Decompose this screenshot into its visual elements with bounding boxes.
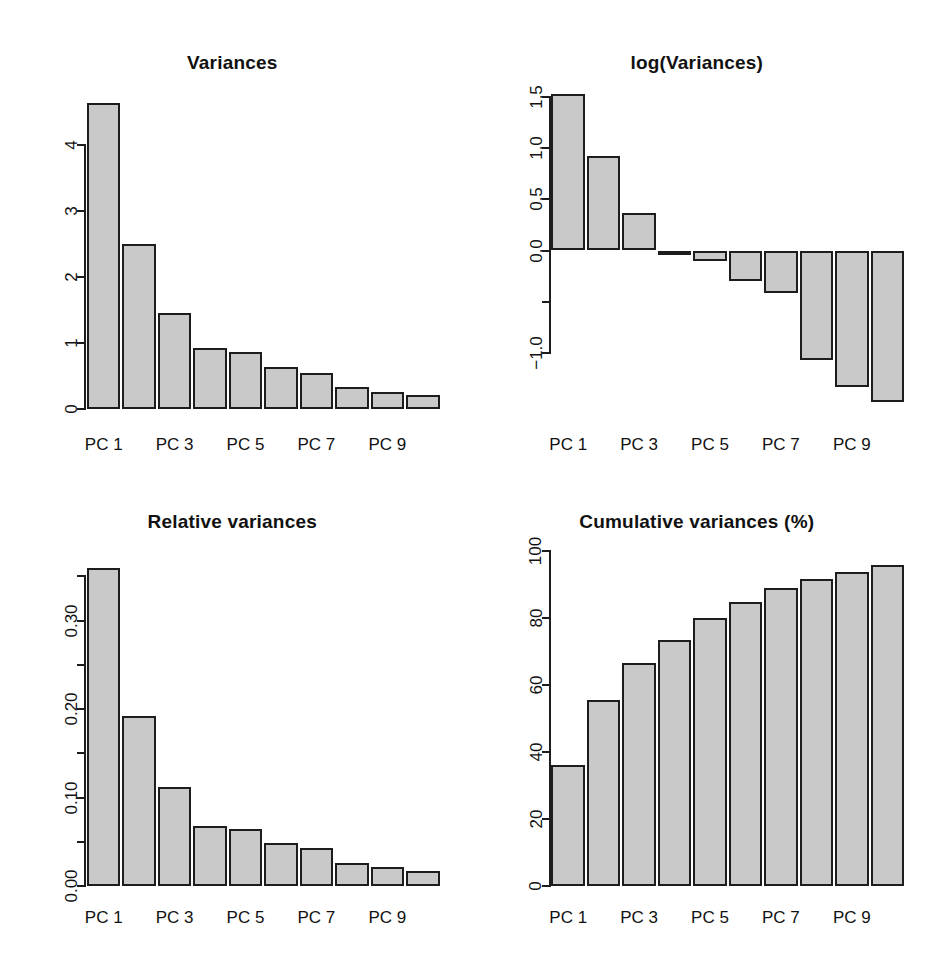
x-axis-tick-label: PC 7	[298, 908, 336, 928]
x-axis-tick-label: PC 5	[691, 908, 729, 928]
x-axis-tick-label: PC 1	[85, 435, 123, 455]
x-axis-tick-label: PC 3	[156, 908, 194, 928]
bar	[335, 387, 369, 409]
x-axis-tick-label: PC 5	[227, 435, 265, 455]
bar	[800, 579, 834, 886]
y-axis-tick	[542, 301, 551, 303]
y-axis-tick-label: 0.20	[62, 709, 82, 742]
bar	[871, 251, 905, 402]
bar	[193, 826, 227, 886]
x-axis-tick-label: PC 1	[549, 908, 587, 928]
bar	[300, 848, 334, 886]
bar-series-variances	[86, 92, 441, 409]
x-axis-tick-label: PC 7	[298, 435, 336, 455]
y-axis-tick-label: 0	[62, 409, 82, 418]
bar	[122, 244, 156, 409]
y-axis-tick-label: 0.0	[527, 251, 547, 275]
plot-area-relative-variances: 0.000.100.200.30 PC 1PC 3PC 5PC 7PC 9	[86, 557, 441, 886]
y-axis-tick-label: 3	[62, 211, 82, 220]
bar	[587, 700, 621, 886]
y-axis-log-variances: −1.00.00.51.01.5	[465, 92, 551, 409]
y-axis-spine	[549, 551, 551, 886]
panel-title-log-variances: log(Variances)	[465, 52, 929, 74]
bar	[122, 716, 156, 886]
y-axis-tick	[77, 752, 86, 754]
bar	[693, 618, 727, 886]
bar-series-relative-variances	[86, 557, 441, 886]
plot-area-cumulative-variances: 020406080100 PC 1PC 3PC 5PC 7PC 9	[551, 551, 906, 886]
x-axis-tick-label: PC 1	[549, 435, 587, 455]
plot-area-log-variances: −1.00.00.51.01.5 PC 1PC 3PC 5PC 7PC 9	[551, 92, 906, 409]
bar	[729, 251, 763, 282]
panel-variances: Variances 01234 PC 1PC 3PC 5PC 7PC 9	[0, 0, 465, 479]
bar	[764, 251, 798, 294]
bar	[658, 251, 692, 255]
bar	[835, 251, 869, 387]
y-axis-tick-label: 60	[527, 685, 547, 704]
x-axis-tick-label: PC 5	[227, 908, 265, 928]
y-axis-spine	[549, 97, 551, 353]
bar	[729, 602, 763, 886]
bar	[693, 251, 727, 261]
bar	[158, 787, 192, 886]
bar	[158, 313, 192, 409]
bar	[335, 863, 369, 886]
bar-series-cumulative-variances	[551, 551, 906, 886]
y-axis-tick-label: 0.00	[62, 886, 82, 919]
bar	[406, 871, 440, 886]
y-axis-tick-label: 100	[527, 551, 547, 579]
y-axis-tick-label: 1.0	[527, 148, 547, 172]
x-axis-tick-label: PC 7	[762, 908, 800, 928]
panel-title-variances: Variances	[0, 52, 465, 74]
bar	[406, 395, 440, 409]
y-axis-tick	[77, 664, 86, 666]
x-axis-tick-label: PC 7	[762, 435, 800, 455]
x-axis-tick-label: PC 9	[368, 435, 406, 455]
y-axis-tick-label: 2	[62, 277, 82, 286]
bar	[371, 867, 405, 886]
bar	[835, 572, 869, 886]
y-axis-tick-label: 0	[527, 886, 547, 895]
bar	[622, 663, 656, 886]
y-axis-tick-label: 0.5	[527, 199, 547, 223]
x-axis-tick-label: PC 9	[833, 435, 871, 455]
bar	[871, 565, 905, 886]
y-axis-variances: 01234	[0, 92, 86, 409]
bar	[229, 829, 263, 886]
y-axis-tick	[77, 841, 86, 843]
bar	[371, 392, 405, 409]
y-axis-tick-label: 1	[62, 343, 82, 352]
y-axis-tick-label: 1.5	[527, 97, 547, 121]
x-axis-tick-label: PC 3	[620, 908, 658, 928]
y-axis-tick-label: −1.0	[527, 353, 547, 387]
x-axis-tick-label: PC 5	[691, 435, 729, 455]
y-axis-tick-label: 0.10	[62, 798, 82, 831]
y-axis-tick-label: 40	[527, 752, 547, 771]
bar	[87, 568, 121, 886]
bar	[622, 213, 656, 251]
bar	[764, 588, 798, 886]
x-axis-tick-label: PC 3	[620, 435, 658, 455]
panel-relative-variances: Relative variances 0.000.100.200.30 PC 1…	[0, 479, 465, 958]
bar	[300, 373, 334, 409]
screeplot-panel-grid: Variances 01234 PC 1PC 3PC 5PC 7PC 9 log…	[0, 0, 929, 958]
panel-log-variances: log(Variances) −1.00.00.51.01.5 PC 1PC 3…	[465, 0, 929, 479]
bar	[587, 156, 621, 250]
panel-cumulative-variances: Cumulative variances (%) 020406080100 PC…	[465, 479, 929, 958]
bar	[658, 640, 692, 886]
x-axis-tick-label: PC 3	[156, 435, 194, 455]
y-axis-tick-label: 4	[62, 145, 82, 154]
panel-title-cumulative-variances: Cumulative variances (%)	[465, 511, 929, 533]
bar	[229, 352, 263, 409]
bar-series-log-variances	[551, 92, 906, 409]
bar	[551, 765, 585, 886]
bar	[800, 251, 834, 360]
y-axis-tick-label: 20	[527, 819, 547, 838]
bar	[193, 348, 227, 409]
y-axis-tick-label: 80	[527, 618, 547, 637]
y-axis-cumulative-variances: 020406080100	[465, 551, 551, 886]
plot-area-variances: 01234 PC 1PC 3PC 5PC 7PC 9	[86, 92, 441, 409]
bar	[264, 367, 298, 409]
y-axis-relative-variances: 0.000.100.200.30	[0, 557, 86, 886]
x-axis-tick-label: PC 9	[368, 908, 406, 928]
